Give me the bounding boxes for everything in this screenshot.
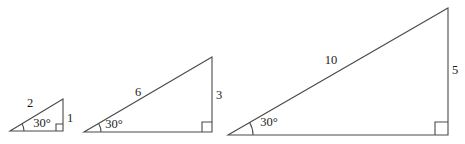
right-angle-mark — [56, 124, 63, 131]
triangle-large-angle-label: 30° — [260, 115, 278, 129]
triangle-large-hypotenuse-label: 10 — [325, 53, 338, 67]
similar-triangles-figure: 230°1630°31030°5 — [0, 0, 465, 144]
similar-triangles-diagram: 230°1630°31030°5 — [0, 0, 465, 144]
triangle-small-angle-label: 30° — [33, 116, 51, 130]
angle-arc — [99, 123, 101, 132]
angle-arc — [22, 124, 24, 131]
triangle-outline — [84, 57, 212, 132]
triangle-small-side-label: 1 — [67, 111, 73, 125]
triangle-medium-side-label: 3 — [216, 88, 222, 102]
right-angle-mark — [202, 122, 212, 132]
triangle-large: 1030°5 — [228, 8, 458, 135]
triangle-medium-angle-label: 30° — [105, 117, 123, 131]
right-angle-mark — [435, 122, 448, 135]
triangle-large-side-label: 5 — [452, 63, 458, 77]
triangle-medium: 630°3 — [84, 57, 222, 132]
triangle-small-hypotenuse-label: 2 — [27, 96, 33, 110]
triangle-small: 230°1 — [10, 96, 73, 131]
triangle-medium-hypotenuse-label: 6 — [135, 85, 141, 99]
angle-arc — [250, 123, 253, 136]
